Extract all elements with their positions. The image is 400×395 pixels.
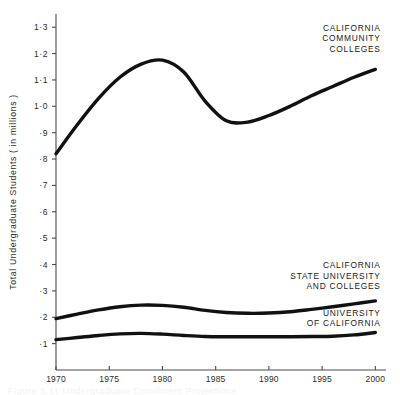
- x-tick-label: 1990: [259, 374, 279, 384]
- series-label-line: AND COLLEGES: [307, 281, 381, 291]
- series-line: [56, 333, 375, 340]
- y-tick-label: 1·1: [34, 75, 48, 85]
- y-tick-label: 1·3: [34, 22, 48, 32]
- x-tick-label: 2000: [365, 374, 385, 384]
- x-tick-label: 1980: [153, 374, 173, 384]
- y-axis-tick-marks: [52, 27, 56, 343]
- x-tick-label: 1970: [46, 374, 66, 384]
- series-line: [56, 60, 375, 154]
- y-tick-label: 1·0: [34, 101, 48, 111]
- y-tick-label: ·9: [39, 128, 48, 138]
- y-tick-label: ·5: [39, 233, 48, 243]
- y-tick-label: ·3: [39, 286, 48, 296]
- y-axis-title: Total Undergraduate Students ( in millio…: [8, 94, 18, 290]
- data-series-group: [56, 60, 375, 340]
- series-label-line: COMMUNITY: [322, 33, 380, 43]
- y-tick-label: 1·2: [34, 49, 48, 59]
- y-tick-label: ·4: [39, 260, 48, 270]
- y-tick-label: ·2: [39, 312, 48, 322]
- series-label-line: CALIFORNIA: [323, 23, 381, 33]
- y-axis-tick-labels: ·1·2·3·4·5·6·7·8·91·01·11·21·3: [34, 22, 48, 348]
- series-label-line: STATE UNIVERSITY: [290, 271, 380, 281]
- figure-caption-partial: Figure 5.11 Undergraduate Enrollment Pro…: [8, 386, 338, 395]
- y-tick-label: ·7: [39, 180, 48, 190]
- y-tick-label: ·8: [39, 154, 48, 164]
- x-axis-tick-labels: 1970197519801985199019952000: [46, 374, 385, 384]
- series-label-line: OF CALIFORNIA: [307, 318, 381, 328]
- series-label-line: UNIVERSITY: [323, 308, 381, 318]
- x-axis-tick-marks: [56, 366, 375, 370]
- series-labels-group: CALIFORNIACOMMUNITYCOLLEGESCALIFORNIASTA…: [290, 23, 380, 328]
- x-tick-label: 1995: [312, 374, 332, 384]
- x-tick-label: 1985: [206, 374, 226, 384]
- series-label-line: COLLEGES: [330, 44, 381, 54]
- series-label-line: CALIFORNIA: [323, 260, 381, 270]
- y-tick-label: ·6: [39, 207, 48, 217]
- y-tick-label: ·1: [39, 339, 48, 349]
- x-tick-label: 1975: [99, 374, 119, 384]
